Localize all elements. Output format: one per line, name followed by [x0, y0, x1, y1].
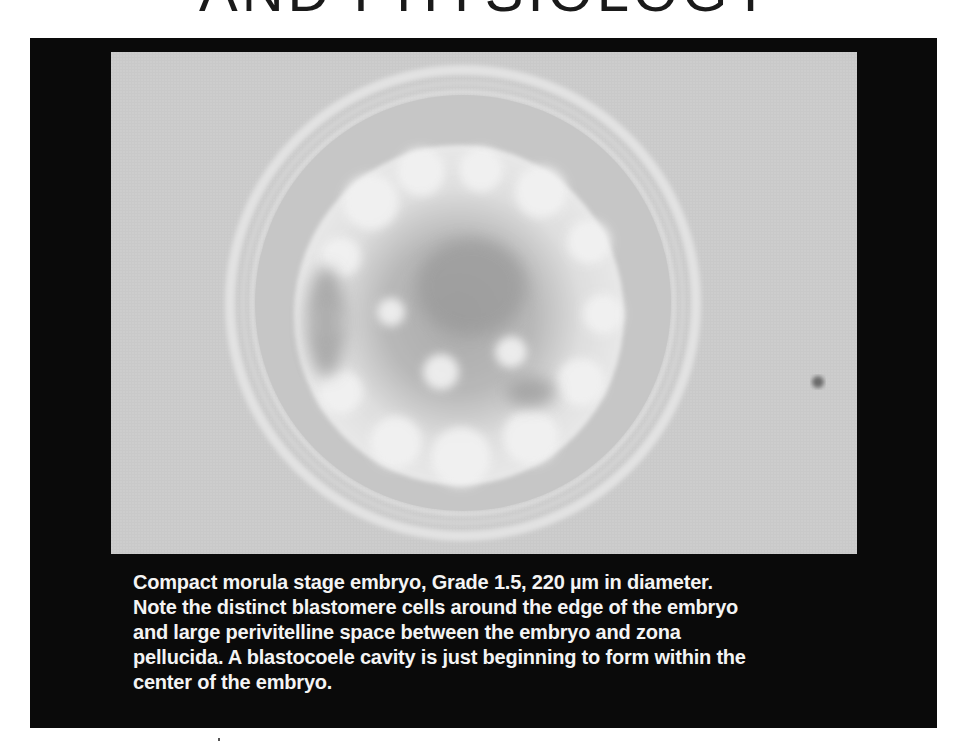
figure-caption: Compact morula stage embryo, Grade 1.5, … [133, 570, 853, 695]
caption-line: center of the embryo. [133, 670, 853, 695]
caption-line: pellucida. A blastocoele cavity is just … [133, 645, 853, 670]
embryo-micrograph [111, 52, 857, 554]
figure-frame: Compact morula stage embryo, Grade 1.5, … [30, 38, 937, 728]
stray-mark [218, 738, 220, 741]
caption-line: Compact morula stage embryo, Grade 1.5, … [133, 570, 853, 595]
caption-line: Note the distinct blastomere cells aroun… [133, 595, 853, 620]
page-title: AND PHYSIOLOGY [0, 0, 973, 20]
embryo-image [111, 52, 857, 554]
caption-line: and large perivitelline space between th… [133, 620, 853, 645]
